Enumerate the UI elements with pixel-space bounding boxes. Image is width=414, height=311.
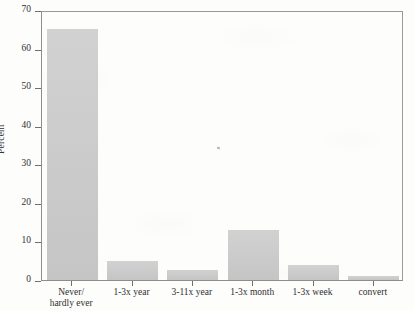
x-axis-tick-mark [313,281,314,286]
plot-area [41,11,403,281]
y-axis-title: Percent [0,94,6,154]
y-axis-tick: 70 [0,11,41,12]
bar-chart-figure: Percent 010203040506070 Never/ hardly ev… [0,0,414,311]
bar [167,270,218,280]
x-axis-category-label: 3-11x year [162,287,222,298]
bar [348,276,399,280]
y-axis-tick-label: 60 [22,43,32,53]
bar [107,261,158,280]
y-axis-tick-label: 30 [22,158,32,168]
x-axis-category-label: Never/ hardly ever [41,287,101,309]
bar [47,29,98,280]
y-axis-tick-label: 40 [22,120,32,130]
scan-artifact-speck [217,147,220,150]
x-axis-tick-mark [252,281,253,286]
y-axis-tick: 60 [0,50,41,51]
y-axis-tick: 40 [0,127,41,128]
y-axis-tick: 20 [0,204,41,205]
x-axis-tick-mark [192,281,193,286]
x-axis-tick-mark [373,281,374,286]
x-axis-category-label: 1-3x week [282,287,342,298]
y-axis-tick-label: 50 [22,81,32,91]
x-axis-category-label: 1-3x month [222,287,282,298]
x-axis-tick-mark [71,281,72,286]
y-axis-tick: 0 [0,281,41,282]
y-axis-tick-label: 70 [22,4,32,14]
x-axis-tick-mark [132,281,133,286]
y-axis-tick: 10 [0,242,41,243]
y-axis-tick-label: 10 [22,235,32,245]
y-axis-tick: 30 [0,165,41,166]
x-axis-category-label: 1-3x year [101,287,161,298]
y-axis-tick-label: 20 [22,197,32,207]
y-axis-tick: 50 [0,88,41,89]
bar [228,230,279,280]
x-axis-category-label: convert [343,287,403,298]
bar [288,265,339,280]
y-axis-tick-mark [35,281,41,282]
y-axis-tick-label: 0 [26,274,31,284]
